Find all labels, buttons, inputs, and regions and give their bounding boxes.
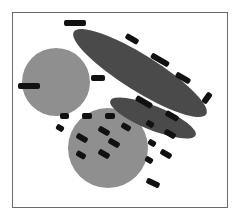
redacted-label: [redacted] (124, 33, 139, 45)
redacted-label: [redacted] (145, 177, 160, 188)
redacted-label: [redacted] (55, 123, 65, 132)
redacted-label: [redacted] (105, 113, 115, 119)
redacted-label: [redacted] (82, 113, 92, 119)
diagram-canvas: [redacted][redacted][redacted][redacted]… (0, 0, 242, 221)
redacted-label: [redacted] (91, 75, 105, 81)
redacted-label: [redacted] (60, 113, 69, 119)
redacted-label: [redacted] (159, 148, 172, 159)
redacted-label: [redacted] (147, 138, 157, 147)
circle-left (22, 48, 90, 116)
redacted-label: [redacted] (64, 20, 86, 26)
redacted-label: [redacted] (18, 83, 40, 89)
